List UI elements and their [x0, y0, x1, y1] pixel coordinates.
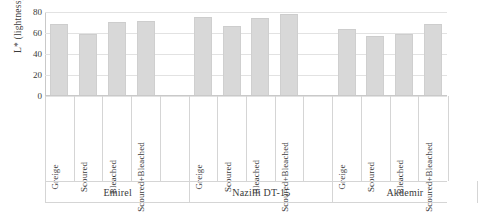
y-axis-tick-label: 60 [33, 28, 42, 38]
group-label-cell: Emirel [45, 181, 190, 203]
category-cell [303, 96, 333, 181]
category-cell: Bleached [102, 96, 132, 181]
category-cell: Bleached [246, 96, 276, 181]
bar [79, 34, 97, 95]
bar [194, 17, 212, 95]
bar [137, 21, 155, 96]
bar [280, 14, 298, 95]
bar [223, 26, 241, 95]
category-cell [160, 96, 190, 181]
bar [366, 36, 384, 95]
bar [395, 34, 413, 95]
group-label: Akdemir [386, 187, 423, 198]
y-axis-tick-label: 20 [33, 70, 42, 80]
group-label-cell: Akdemir [332, 181, 478, 203]
category-cell: Scoured [361, 96, 391, 181]
category-cell: Scoured+Bleached [275, 96, 305, 181]
plot-area [45, 12, 447, 96]
bar [424, 24, 442, 95]
group-label: Nazilli DT-15 [232, 187, 290, 198]
group-label-band: EmirelNazilli DT-15Akdemir [45, 181, 447, 203]
y-axis-tick-labels: 020406080 [22, 6, 42, 102]
category-cell: Greige [332, 96, 362, 181]
bar [108, 22, 126, 95]
category-cell: Scoured+Bleached [131, 96, 161, 181]
group-label: Emirel [104, 187, 132, 198]
y-axis-tick-label: 0 [38, 91, 43, 101]
category-cell: Bleached [390, 96, 420, 181]
category-cell: Scoured [74, 96, 104, 181]
bar [251, 18, 269, 95]
bar-series [45, 12, 447, 96]
y-axis-tick-label: 80 [33, 7, 42, 17]
category-cell: Scoured+Bleached [418, 96, 449, 181]
category-cell: Scoured [217, 96, 247, 181]
bar [50, 24, 68, 95]
y-axis-tick-label: 40 [33, 49, 42, 59]
group-label-cell: Nazilli DT-15 [189, 181, 334, 203]
category-label-table: GreigeScouredBleachedScoured+BleachedGre… [45, 96, 447, 181]
category-cell: Greige [189, 96, 219, 181]
bar [338, 29, 356, 95]
category-cell: Greige [45, 96, 75, 181]
